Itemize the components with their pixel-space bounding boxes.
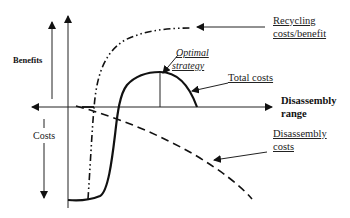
recycling-label-line1: Recycling [273,14,316,27]
total-costs-curve [68,72,197,200]
recycling-label-line2: costs/benefit [273,27,326,40]
total-costs-pointer-arrow [192,83,228,91]
disassembly-costs-label-line1: Disassembly [273,127,327,140]
costs-label: Costs [33,128,55,143]
benefits-label: Benefits [13,54,42,67]
optimal-strategy-label-line2: strategy [172,59,204,72]
optimal-strategy-label-line1: Optimal [176,46,209,59]
disassembly-costs-curve [76,106,252,199]
disassembly-costs-label-line2: costs [273,140,294,153]
total-costs-label: Total costs [228,71,273,84]
x-axis-label-line2: range [281,107,307,120]
x-axis-label-line1: Disassembly [281,94,336,107]
disassembly-pointer-arrow [214,152,267,160]
